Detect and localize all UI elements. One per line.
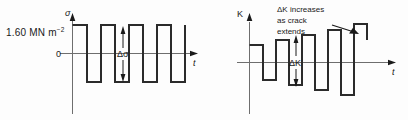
k-x-axis (237, 60, 396, 66)
k-annotation-line-1: ΔK increases (277, 5, 324, 14)
stress-y-axis-arrowhead (70, 13, 76, 21)
k-x-axis-label: t (392, 67, 395, 77)
k-y-axis-arrowhead (247, 13, 253, 21)
k-y-axis-label: K (237, 9, 243, 19)
k-x-axis-arrowhead (388, 60, 396, 66)
k-annotation-line-2: as crack (277, 16, 308, 25)
k-panel: K t ΔK ΔK increases as crack extends (204, 0, 408, 120)
delta-k-label: ΔK (289, 58, 301, 68)
stress-amplitude-exponent: −2 (57, 26, 65, 33)
stress-y-axis-label: σ (65, 8, 71, 18)
stress-x-axis-label: t (193, 58, 196, 68)
stress-zero-label: 0 (56, 49, 61, 59)
stress-panel: σ t 0 1.60 MN m−2 Δσ (0, 0, 204, 120)
k-y-axis (247, 13, 253, 114)
figure-container: σ t 0 1.60 MN m−2 Δσ (0, 0, 408, 120)
stress-y-axis (70, 13, 76, 114)
k-annotation-line-3: extends (277, 27, 305, 36)
k-square-waveform (250, 24, 368, 95)
stress-x-axis-arrowhead (190, 51, 198, 57)
delta-sigma-label: Δσ (117, 49, 129, 59)
k-chart-svg: K t ΔK ΔK increases as crack extends (204, 0, 408, 120)
stress-amplitude-label: 1.60 MN m−2 (6, 26, 65, 38)
stress-amplitude-value: 1.60 MN m (6, 27, 57, 38)
stress-chart-svg: σ t 0 1.60 MN m−2 Δσ (0, 0, 204, 120)
